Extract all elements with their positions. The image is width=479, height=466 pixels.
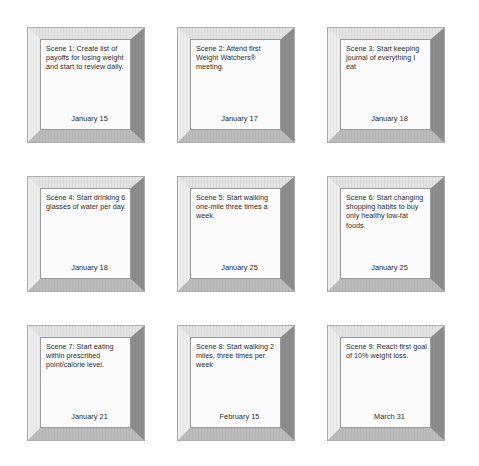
storyboard-frame-6[interactable]: Scene 6: Start changing shopping habits … (327, 176, 445, 292)
storyboard-frame-9[interactable]: Scene 9: Reach first goal of 10% weight … (327, 325, 445, 441)
storyboard-grid: Scene 1: Create list of payoffs for losi… (27, 27, 452, 441)
frame-mat-9: Scene 9: Reach first goal of 10% weight … (340, 337, 431, 428)
scene-date-5: January 25 (191, 263, 274, 272)
scene-date-1: January 15 (41, 114, 124, 123)
scene-body-8: Scene 8: Start walking 2 miles, three ti… (196, 342, 277, 370)
frame-mat-2: Scene 2: Attend first Weight Watchers® m… (190, 39, 281, 130)
frame-mat-6: Scene 6: Start changing shopping habits … (340, 188, 431, 279)
scene-body-9: Scene 9: Reach first goal of 10% weight … (346, 342, 427, 360)
frame-mat-1: Scene 1: Create list of payoffs for losi… (40, 39, 131, 130)
frame-mat-3: Scene 3: Start keeping journal of everyt… (340, 39, 431, 130)
scene-body-5: Scene 5: Start walking one-mile three ti… (196, 193, 277, 221)
scene-date-6: January 25 (341, 263, 424, 272)
scene-body-2: Scene 2: Attend first Weight Watchers® m… (196, 44, 277, 72)
scene-date-9: March 31 (341, 412, 424, 421)
scene-body-3: Scene 3: Start keeping journal of everyt… (346, 44, 427, 72)
storyboard-frame-8[interactable]: Scene 8: Start walking 2 miles, three ti… (177, 325, 295, 441)
storyboard-frame-1[interactable]: Scene 1: Create list of payoffs for losi… (27, 27, 145, 143)
frame-mat-5: Scene 5: Start walking one-mile three ti… (190, 188, 281, 279)
storyboard-frame-3[interactable]: Scene 3: Start keeping journal of everyt… (327, 27, 445, 143)
scene-body-6: Scene 6: Start changing shopping habits … (346, 193, 427, 230)
scene-body-4: Scene 4: Start drinking 6 glasses of wat… (46, 193, 127, 211)
storyboard-frame-4[interactable]: Scene 4: Start drinking 6 glasses of wat… (27, 176, 145, 292)
scene-date-3: January 18 (341, 114, 424, 123)
frame-mat-8: Scene 8: Start walking 2 miles, three ti… (190, 337, 281, 428)
frame-mat-4: Scene 4: Start drinking 6 glasses of wat… (40, 188, 131, 279)
storyboard-frame-2[interactable]: Scene 2: Attend first Weight Watchers® m… (177, 27, 295, 143)
scene-body-7: Scene 7: Start eating within prescribed … (46, 342, 127, 370)
scene-body-1: Scene 1: Create list of payoffs for losi… (46, 44, 127, 72)
scene-date-8: February 15 (191, 412, 274, 421)
storyboard-frame-5[interactable]: Scene 5: Start walking one-mile three ti… (177, 176, 295, 292)
frame-mat-7: Scene 7: Start eating within prescribed … (40, 337, 131, 428)
storyboard-canvas: Scene 1: Create list of payoffs for losi… (0, 0, 479, 466)
storyboard-frame-7[interactable]: Scene 7: Start eating within prescribed … (27, 325, 145, 441)
scene-date-4: January 18 (41, 263, 124, 272)
scene-date-7: January 21 (41, 412, 124, 421)
scene-date-2: January 17 (191, 114, 274, 123)
